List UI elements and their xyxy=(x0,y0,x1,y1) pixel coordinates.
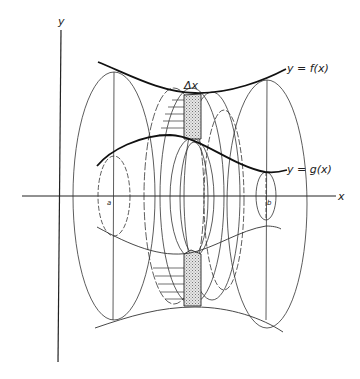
delta-x-label: Δx xyxy=(183,79,199,92)
y-axis-label: y xyxy=(57,15,65,28)
interval-end-label: b xyxy=(267,199,272,207)
curve-g-label: y = g(x) xyxy=(286,163,332,176)
curve-f-label: y = f(x) xyxy=(286,62,329,75)
interval-start-label: a xyxy=(107,199,111,207)
curve-f-reflection xyxy=(95,307,283,332)
representative-strip xyxy=(184,94,201,306)
x-axis-label: x xyxy=(337,190,345,203)
washer-method-figure: y x a b xyxy=(0,0,360,379)
curve-g xyxy=(97,135,287,172)
